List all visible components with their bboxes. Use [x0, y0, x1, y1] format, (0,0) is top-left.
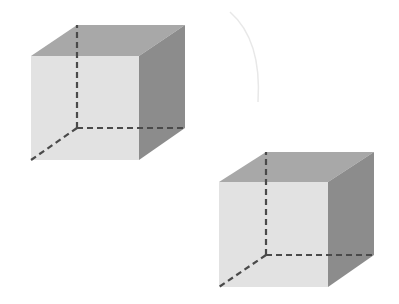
front-face [31, 56, 139, 160]
cube-1 [31, 25, 185, 160]
cube-2 [219, 152, 374, 287]
two-cubes-diagram [0, 0, 399, 304]
faint-arc [230, 12, 258, 102]
front-face [219, 182, 328, 287]
